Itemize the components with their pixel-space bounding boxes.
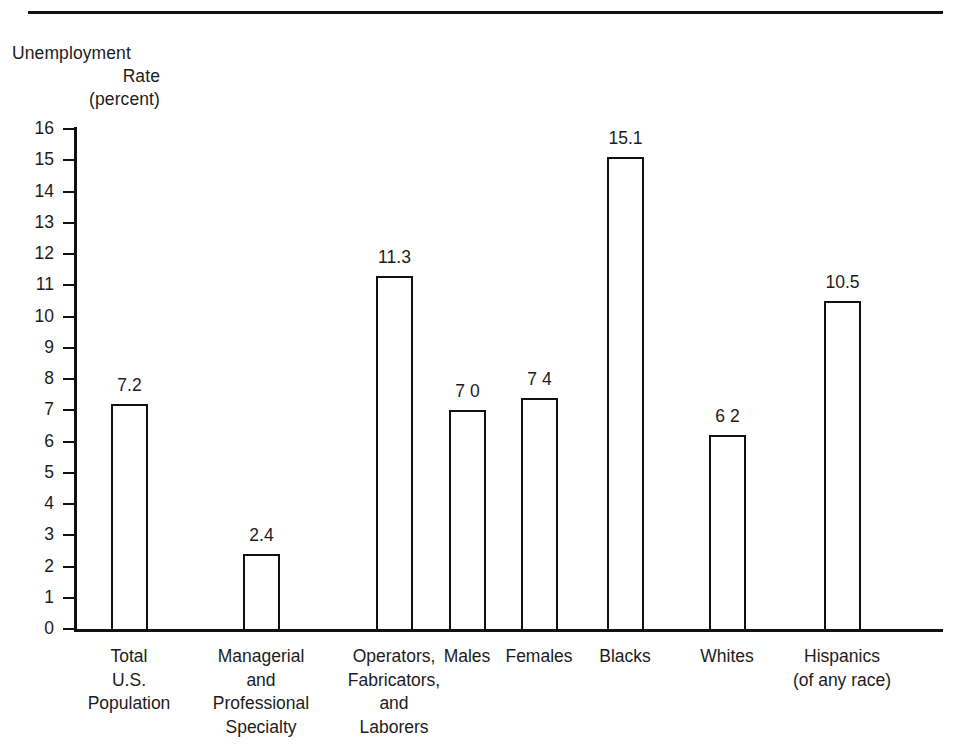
category-label-8: Hispanics(of any race) xyxy=(757,645,927,692)
y-axis-tick-label: 13 xyxy=(8,214,54,232)
bar-1 xyxy=(111,404,148,629)
bar-value-label: 2.4 xyxy=(222,527,302,545)
category-label-line: (of any race) xyxy=(757,669,927,693)
bar-value-label: 7 4 xyxy=(500,371,580,389)
y-axis-tick-label: 11 xyxy=(8,276,54,294)
category-label-line: and xyxy=(181,669,341,693)
y-axis-tick xyxy=(63,409,74,411)
bar-3 xyxy=(376,276,413,629)
y-axis-tick-label: 15 xyxy=(8,151,54,169)
cropped-title-remnant xyxy=(380,0,590,4)
category-label-line: Professional xyxy=(181,692,341,716)
category-label-line: Blacks xyxy=(570,645,680,669)
y-axis-tick xyxy=(63,284,74,286)
bar-value-label: 11.3 xyxy=(355,249,435,267)
y-axis-tick-label: 7 xyxy=(8,401,54,419)
y-axis-tick xyxy=(63,441,74,443)
bar-value-label: 7 0 xyxy=(428,383,508,401)
y-axis-tick-label: 5 xyxy=(8,464,54,482)
y-axis-tick xyxy=(63,378,74,380)
y-axis-tick xyxy=(63,159,74,161)
y-axis-tick-label: 1 xyxy=(8,589,54,607)
bar-7 xyxy=(709,435,746,629)
chart-page: Unemployment Rate (percent) 161514131211… xyxy=(0,0,965,746)
bar-4 xyxy=(449,410,486,629)
bar-2 xyxy=(243,554,280,629)
bar-6 xyxy=(607,157,644,629)
y-axis-tick xyxy=(63,191,74,193)
category-label-line: Managerial xyxy=(181,645,341,669)
y-axis-caption-line1: Unemployment xyxy=(8,42,160,65)
y-axis-tick-label: 16 xyxy=(8,120,54,138)
y-axis-tick-label: 6 xyxy=(8,433,54,451)
category-label-line: Fabricators, xyxy=(319,669,469,693)
y-axis-tick-label: 14 xyxy=(8,183,54,201)
category-label-line: Laborers xyxy=(319,716,469,740)
y-axis-line xyxy=(74,127,77,630)
bar-value-label: 7.2 xyxy=(90,377,170,395)
y-axis-tick xyxy=(63,503,74,505)
category-label-line: Hispanics xyxy=(757,645,927,669)
y-axis-tick xyxy=(63,566,74,568)
y-axis-caption: Unemployment Rate (percent) xyxy=(8,42,160,111)
y-axis-tick-label: 8 xyxy=(8,370,54,388)
plot-area: 161514131211109876543210 7.22.411.37 07 … xyxy=(74,129,943,629)
y-axis-tick xyxy=(63,472,74,474)
y-axis-tick-label: 2 xyxy=(8,558,54,576)
bar-8 xyxy=(824,301,861,629)
x-axis-line xyxy=(74,629,943,632)
y-axis-tick xyxy=(63,253,74,255)
y-axis-tick xyxy=(63,628,74,630)
bar-5 xyxy=(521,398,558,629)
y-axis-tick-label: 9 xyxy=(8,339,54,357)
y-axis-tick xyxy=(63,222,74,224)
y-axis-tick xyxy=(63,597,74,599)
y-axis-tick xyxy=(63,534,74,536)
y-axis-caption-line3: (percent) xyxy=(8,88,160,111)
y-axis-tick-label: 4 xyxy=(8,495,54,513)
y-axis-tick-label: 0 xyxy=(8,620,54,638)
y-axis-tick-label: 12 xyxy=(8,245,54,263)
y-axis-tick-label: 3 xyxy=(8,526,54,544)
y-axis-caption-line2: Rate xyxy=(8,65,160,88)
category-label-line: Specialty xyxy=(181,716,341,740)
top-rule xyxy=(28,11,943,14)
category-label-6: Blacks xyxy=(570,645,680,669)
bar-value-label: 15.1 xyxy=(586,130,666,148)
y-axis-tick xyxy=(63,316,74,318)
bar-value-label: 6 2 xyxy=(688,408,768,426)
y-axis-tick-label: 10 xyxy=(8,308,54,326)
category-label-line: and xyxy=(319,692,469,716)
y-axis-tick xyxy=(63,347,74,349)
category-label-2: ManagerialandProfessionalSpecialty xyxy=(181,645,341,739)
y-axis-tick xyxy=(63,128,74,130)
bar-value-label: 10.5 xyxy=(803,274,883,292)
